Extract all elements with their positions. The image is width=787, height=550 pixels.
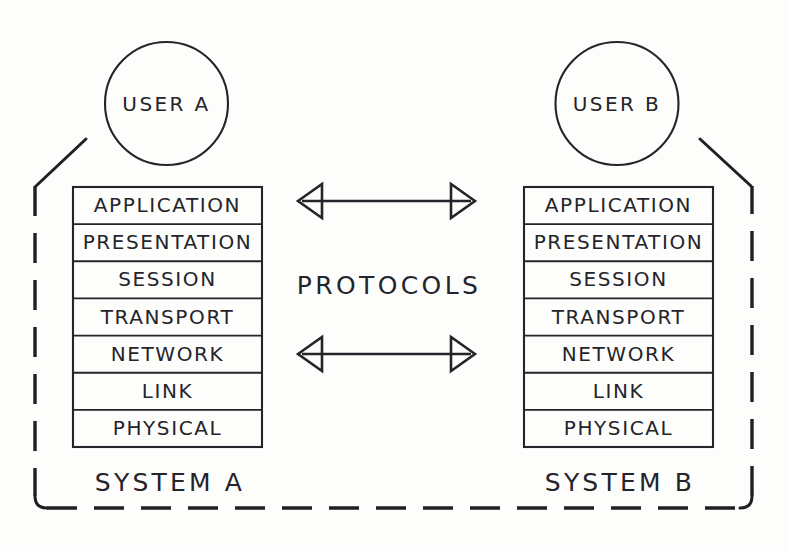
layer-b-presentation: PRESENTATION <box>534 230 704 254</box>
layer-a-session: SESSION <box>118 267 217 291</box>
layer-b-physical: PHYSICAL <box>564 416 674 440</box>
application-protocol-arrow <box>298 184 475 218</box>
osi-model-diagram: USER A APPLICATION PRESENTATION SESSION … <box>0 0 787 550</box>
layer-b-network: NETWORK <box>562 342 676 366</box>
layer-b-session: SESSION <box>569 267 668 291</box>
boundary-diagonal-right <box>700 139 751 186</box>
boundary-corner-bottom-left <box>35 496 47 508</box>
layer-b-link: LINK <box>593 379 645 403</box>
protocols-label: PROTOCOLS <box>297 271 482 300</box>
user-a-label: USER A <box>122 92 210 116</box>
boundary-corner-bottom-right <box>740 496 752 508</box>
user-b-label: USER B <box>573 92 661 116</box>
layer-b-transport: TRANSPORT <box>551 305 686 329</box>
layer-a-presentation: PRESENTATION <box>83 230 253 254</box>
layer-a-physical: PHYSICAL <box>113 416 223 440</box>
network-protocol-arrow <box>298 337 475 371</box>
layer-b-application: APPLICATION <box>545 193 692 217</box>
system-b-group: USER B APPLICATION PRESENTATION SESSION … <box>524 42 713 497</box>
layer-a-transport: TRANSPORT <box>100 305 235 329</box>
system-a-group: USER A APPLICATION PRESENTATION SESSION … <box>73 42 262 497</box>
layer-a-network: NETWORK <box>111 342 225 366</box>
system-b-label: SYSTEM B <box>545 468 695 497</box>
boundary-diagonal-left <box>36 139 86 186</box>
layer-a-application: APPLICATION <box>94 193 241 217</box>
system-a-label: SYSTEM A <box>95 468 245 497</box>
layer-a-link: LINK <box>142 379 194 403</box>
